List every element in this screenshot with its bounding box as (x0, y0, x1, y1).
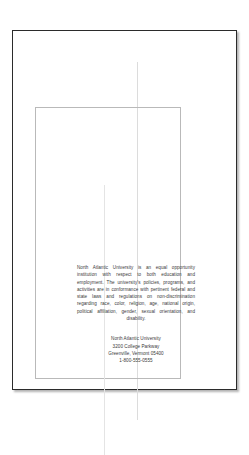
equal-opportunity-statement: North Atlantic University is an equal op… (77, 264, 195, 322)
page-sheet[interactable]: North Atlantic University is an equal op… (12, 30, 237, 390)
address-organization: North Atlantic University (77, 335, 195, 342)
address-street: 3200 College Parkway (77, 343, 195, 350)
address-phone: 1-800-555-0555 (77, 357, 195, 364)
address-city-state-zip: Greenville, Vermont 05400 (77, 350, 195, 357)
address-block: North Atlantic University 3200 College P… (77, 335, 195, 364)
text-block[interactable]: North Atlantic University is an equal op… (77, 264, 195, 365)
